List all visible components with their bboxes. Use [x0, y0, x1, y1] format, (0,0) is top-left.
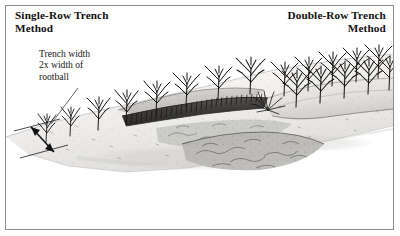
single-row-title: Single-Row Trench Method	[15, 9, 109, 34]
trench-planting-illustration	[6, 6, 393, 229]
trench-width-callout: Trench width 2x width of rootball	[39, 48, 90, 82]
double-row-title: Double-Row Trench Method	[287, 9, 386, 34]
trench-method-figure: Single-Row Trench Method Double-Row Tren…	[0, 0, 400, 236]
